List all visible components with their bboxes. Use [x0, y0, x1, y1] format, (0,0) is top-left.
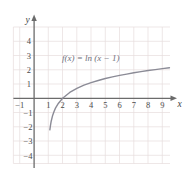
graph-plot: y x −1 1 2 3 4 5 6 7 8 9 4 3 2 1 −1 −2 −… [0, 0, 190, 178]
x-tick-label: 4 [89, 100, 94, 110]
y-tick-label: 2 [27, 65, 31, 75]
y-tick-label: 1 [27, 79, 31, 89]
y-axis-label: y [25, 15, 31, 25]
x-axis [13, 96, 177, 101]
y-tick-label: 3 [27, 51, 31, 61]
function-equation-label: f(x) = ln (x − 1) [62, 53, 119, 63]
y-tick-label: −3 [23, 136, 32, 146]
y-tick-label: −1 [23, 108, 32, 118]
grid-lines [13, 27, 170, 164]
y-tick-label: −4 [23, 151, 33, 161]
x-tick-label: 5 [103, 100, 107, 110]
x-axis-label: x [177, 99, 183, 109]
x-tick-label: 1 [46, 100, 50, 110]
x-tick-label: 3 [75, 100, 79, 110]
x-tick-label: 8 [146, 100, 150, 110]
figure-container: y x −1 1 2 3 4 5 6 7 8 9 4 3 2 1 −1 −2 −… [0, 0, 190, 178]
x-tick-label: 9 [160, 100, 164, 110]
x-tick-labels: −1 1 2 3 4 5 6 7 8 9 [15, 100, 164, 110]
x-tick-label: 7 [132, 100, 136, 110]
y-tick-label: −2 [23, 122, 32, 132]
x-tick-label: 6 [117, 100, 121, 110]
